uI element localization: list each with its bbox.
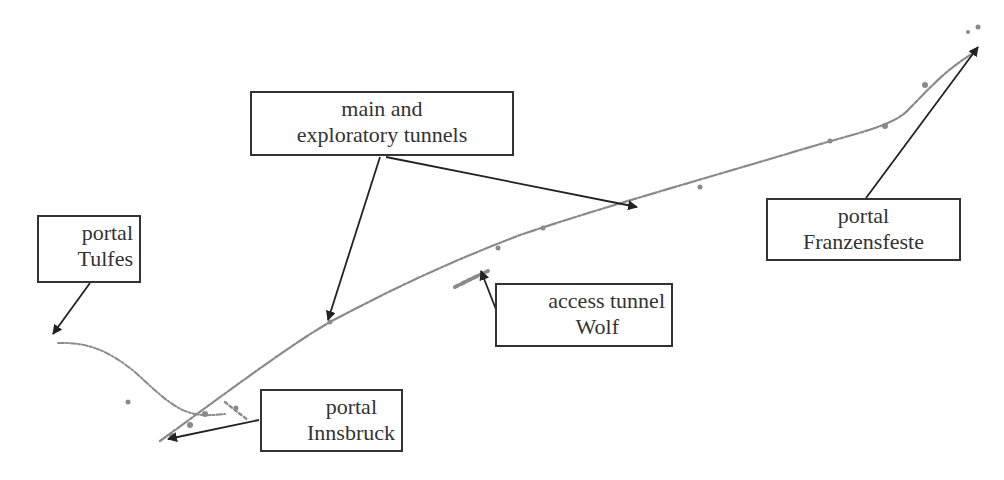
tulfes-branch-line [58,343,225,415]
label-main-line1: main and [258,96,506,122]
label-wolf-line2: Wolf [503,314,665,340]
label-access-tunnel-wolf: access tunnel Wolf [495,283,673,347]
label-main-and-exploratory-tunnels: main and exploratory tunnels [250,91,514,156]
label-main-line2: exploratory tunnels [258,122,506,148]
arrow-to-portal-franzensfeste [866,47,978,198]
arrow-to-portal-tulfes [53,283,90,334]
innsbruck-spur-line [225,402,248,420]
label-portal-innsbruck: portal Innsbruck [260,389,403,452]
wolf-access-line [455,271,488,287]
label-innsbruck-line2: Innsbruck [268,420,395,446]
label-portal-tulfes: portal Tulfes [37,215,141,283]
arrow-to-main-tunnel-right [386,157,637,207]
label-tulfes-line1: portal [45,220,133,246]
label-tulfes-line2: Tulfes [45,246,133,272]
arrow-to-portal-innsbruck [168,420,259,439]
label-franzensfeste-line2: Franzensfeste [774,229,953,255]
label-wolf-line1: access tunnel [503,288,665,314]
label-innsbruck-line1: portal [268,394,395,420]
arrow-to-main-tunnel-left [328,157,380,320]
label-portal-franzensfeste: portal Franzensfeste [766,198,961,261]
label-franzensfeste-line1: portal [774,203,953,229]
